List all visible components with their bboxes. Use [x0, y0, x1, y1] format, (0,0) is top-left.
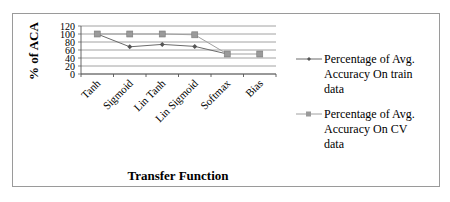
x-category-labels: TanhSigmoidLin TanhLin SigmoidSoftmaxBia… — [79, 77, 265, 125]
y-tick-label: 120 — [60, 21, 75, 32]
data-point-square — [192, 32, 198, 38]
legend-square-icon — [306, 112, 311, 117]
legend: Percentage of Avg.Accuracy On traindataP… — [296, 52, 415, 151]
data-point-square — [159, 31, 165, 37]
legend-label: Percentage of Avg. — [324, 107, 415, 121]
legend-label: data — [324, 82, 345, 96]
legend-label: Accuracy On train — [324, 67, 413, 81]
x-category-label: Softmax — [198, 77, 233, 112]
legend-label: Percentage of Avg. — [324, 52, 415, 66]
legend-label: Accuracy On CV — [324, 122, 408, 136]
y-axis-label: % of ACA — [26, 22, 41, 80]
data-point-square — [257, 51, 263, 57]
data-series — [94, 31, 263, 57]
legend-diamond-icon — [307, 57, 311, 61]
x-category-label: Tanh — [79, 77, 103, 101]
data-point-square — [127, 31, 133, 37]
data-point-diamond — [192, 44, 197, 49]
data-point-square — [224, 51, 230, 57]
data-point-diamond — [127, 44, 132, 49]
data-point-diamond — [160, 42, 165, 47]
x-category-label: Sigmoid — [100, 77, 135, 112]
data-point-square — [94, 31, 100, 37]
gridlines — [78, 26, 276, 74]
legend-label: data — [324, 137, 345, 151]
line-chart: 020406080100120 TanhSigmoidLin TanhLin S… — [0, 0, 450, 202]
x-axis-label: Transfer Function — [128, 168, 230, 183]
x-category-label: Bias — [243, 77, 265, 99]
y-tick-labels: 020406080100120 — [60, 21, 75, 80]
